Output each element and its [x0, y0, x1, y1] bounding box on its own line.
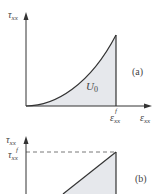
panel-b: τxx τxx f (b)	[6, 134, 147, 194]
y-axis-arrow-icon	[24, 12, 29, 20]
x-axis-label: εxx	[140, 112, 151, 125]
panel-a: τxx U0 (a) εxx f εxx	[8, 9, 152, 125]
x-axis-arrow-icon	[144, 104, 152, 109]
y-axis-b-arrow-icon	[24, 136, 29, 144]
panel-tag-a: (a)	[132, 66, 143, 78]
panel-tag-b: (b)	[135, 173, 147, 185]
stress-strain-diagram: τxx U0 (a) εxx f εxx τxx τxx f (b)	[0, 0, 165, 194]
strain-energy-area	[26, 35, 116, 106]
failure-strain-superscript: f	[115, 107, 118, 115]
failure-stress-superscript: f	[16, 146, 19, 154]
y-axis-label: τxx	[8, 9, 19, 22]
